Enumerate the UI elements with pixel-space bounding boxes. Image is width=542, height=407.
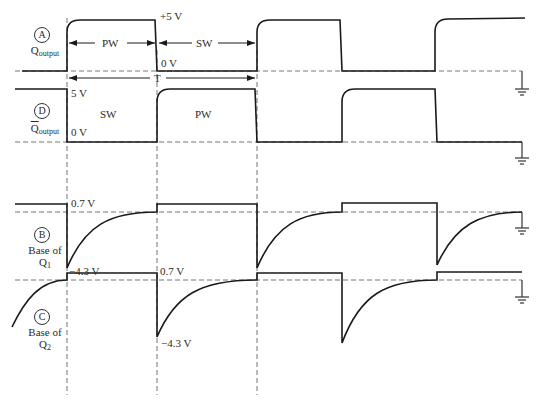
ground-icon: [515, 280, 529, 303]
signal-label-q-output: Qoutput: [20, 44, 70, 60]
signal-marker-a: A: [34, 27, 50, 43]
space-width-label: SW: [196, 38, 213, 49]
waveform-q-bar-output: [15, 89, 522, 142]
ground-icon: [515, 71, 529, 95]
signal-label-base-q2: Base ofQ2: [15, 326, 75, 354]
level-0p7v-b: 0.7 V: [71, 198, 95, 209]
level-0p7v-c: 0.7 V: [160, 266, 184, 277]
ground-icon: [515, 142, 529, 164]
level-neg4p3v-c: −4.3 V: [161, 338, 191, 349]
pulse-width-label-lower: PW: [195, 109, 212, 120]
waveform-base-q2: [12, 272, 522, 343]
signal-marker-b: B: [34, 227, 50, 243]
space-width-label-lower: SW: [100, 109, 117, 120]
level-neg4p3v-b: −4.3 V: [69, 266, 99, 277]
signal-label-q-bar-output: Qoutput: [20, 122, 70, 138]
period-label: T: [154, 73, 161, 84]
level-5v-d: 5 V: [71, 88, 87, 99]
waveform-q-output: [22, 18, 525, 71]
level-0v-d: 0 V: [71, 127, 87, 138]
ground-icon: [515, 212, 529, 234]
signal-label-base-q1: Base ofQ1: [15, 244, 75, 272]
level-0v-a: 0 V: [161, 58, 177, 69]
level-plus5v: +5 V: [160, 11, 182, 22]
pulse-width-label: PW: [102, 38, 119, 49]
signal-marker-d: D: [34, 103, 50, 119]
waveform-base-q1: [15, 203, 522, 268]
signal-marker-c: C: [34, 309, 50, 325]
